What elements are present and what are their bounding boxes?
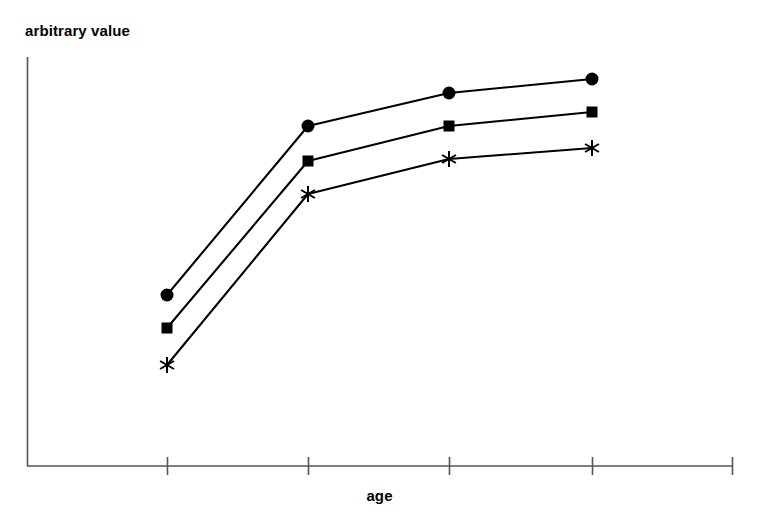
asterisk-series-line (167, 148, 592, 365)
square-series-markers (162, 107, 598, 334)
data-point-circle (161, 289, 174, 302)
asterisk-series-markers (160, 140, 599, 373)
chart-figure: arbitrary value age (0, 0, 757, 526)
data-point-square (303, 156, 314, 167)
y-axis-label: arbitrary value (25, 22, 130, 39)
data-point-circle (443, 87, 456, 100)
data-point-circle (302, 120, 315, 133)
data-point-circle (586, 73, 599, 86)
data-point-square (162, 323, 173, 334)
line-chart-canvas (0, 0, 757, 526)
series-lines-group (167, 79, 592, 365)
data-point-square (444, 121, 455, 132)
axes-group (27, 57, 733, 475)
circle-series-line (167, 79, 592, 295)
x-axis-label: age (1, 487, 757, 504)
circle-series-markers (161, 73, 599, 302)
data-point-square (587, 107, 598, 118)
